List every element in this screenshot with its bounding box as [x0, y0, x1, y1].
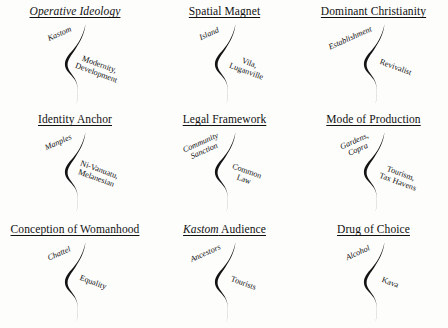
- panel-title: Spatial Magnet: [150, 5, 299, 18]
- panel-title: Operative Ideology: [0, 5, 150, 18]
- panel-title: Mode of Production: [299, 113, 448, 126]
- panel-title: Drug of Choice: [299, 223, 448, 236]
- panel-operative-ideology: Operative Ideology Kastom Modernity,Deve…: [0, 0, 150, 108]
- panel-title: Identity Anchor: [0, 113, 150, 126]
- panel-title-prefix: Legal Framework: [183, 113, 267, 125]
- panel-spatial-magnet: Spatial Magnet Island Vila,Luganville: [150, 0, 299, 108]
- panel-conception-of-womanhood: Conception of Womanhood Chattel Equality: [0, 218, 150, 328]
- panel-title-prefix: Drug of Choice: [337, 223, 410, 235]
- panel-title: Conception of Womanhood: [0, 223, 150, 236]
- diagram-grid: Operative Ideology Kastom Modernity,Deve…: [0, 0, 448, 328]
- panel-title-prefix: Mode of Production: [326, 113, 420, 125]
- panel-dominant-christianity: Dominant Christianity Establishment Revi…: [299, 0, 448, 108]
- panel-title: Legal Framework: [150, 113, 299, 126]
- panel-title: Kastom Audience: [150, 223, 299, 236]
- panel-title: Dominant Christianity: [299, 5, 448, 18]
- panel-title-prefix: Kastom: [183, 223, 219, 235]
- panel-title-prefix: Identity Anchor: [38, 113, 112, 125]
- panel-kastom-audience: Kastom Audience Ancestors Tourists: [150, 218, 299, 328]
- panel-mode-of-production: Mode of Production Gardens,Copra Tourism…: [299, 108, 448, 218]
- panel-title-prefix: Operative Ideology: [30, 5, 121, 17]
- panel-title-prefix: Dominant Christianity: [321, 5, 426, 17]
- panel-title-suffix: Audience: [219, 223, 266, 235]
- panel-legal-framework: Legal Framework CommunitySanction Common…: [150, 108, 299, 218]
- panel-drug-of-choice: Drug of Choice Alcohol Kava: [299, 218, 448, 328]
- panel-title-prefix: Conception of Womanhood: [11, 223, 140, 235]
- panel-identity-anchor: Identity Anchor Manples Ni-Vanuatu,Melan…: [0, 108, 150, 218]
- panel-title-prefix: Spatial Magnet: [189, 5, 260, 17]
